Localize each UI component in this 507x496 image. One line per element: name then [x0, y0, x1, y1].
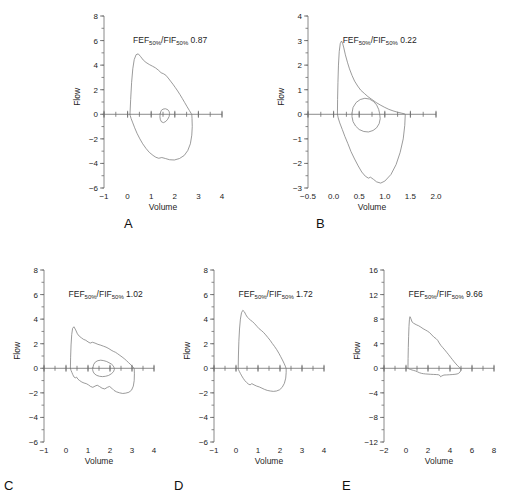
x-tick-label: 4: [448, 446, 453, 455]
x-tick-label: 0: [64, 446, 69, 455]
y-tick-label: 0: [94, 110, 99, 119]
panel-letter: E: [342, 478, 351, 493]
y-tick-label: 1: [298, 86, 303, 95]
x-tick-label: −1: [209, 446, 219, 455]
y-tick-label: −2: [29, 389, 39, 398]
chart-d: −6−4−202468−101234VolumeFlowFEF50%/FIF50…: [172, 258, 340, 494]
y-axis-title: Flow: [72, 87, 82, 106]
panel-e: −12−8−40481216−202468VolumeFlowFEF50%/FI…: [340, 258, 507, 494]
y-tick-label: 4: [298, 12, 303, 21]
panel-letter: C: [4, 478, 13, 493]
x-tick-label: 2: [426, 446, 431, 455]
y-tick-label: 6: [204, 291, 209, 300]
y-tick-label: 8: [34, 266, 39, 275]
y-tick-label: 12: [369, 291, 378, 300]
x-tick-label: 1.0: [379, 192, 391, 201]
y-tick-label: 2: [94, 86, 99, 95]
forced-vital-capacity-loop: [408, 317, 461, 377]
tidal-breathing-loop: [352, 98, 380, 132]
y-tick-label: −2: [199, 389, 209, 398]
y-axis-title: Flow: [182, 341, 192, 360]
x-tick-label: 4: [322, 446, 327, 455]
y-tick-label: −2: [89, 135, 99, 144]
x-tick-label: 4: [152, 446, 157, 455]
y-tick-label: −4: [199, 413, 209, 422]
y-tick-label: 0: [34, 364, 39, 373]
y-tick-label: 8: [204, 266, 209, 275]
panel-c: −6−4−202468−101234VolumeFlowFEF50%/FIF50…: [2, 258, 170, 494]
x-tick-label: 8: [492, 446, 497, 455]
y-tick-label: −6: [199, 438, 209, 447]
x-tick-label: 0: [234, 446, 239, 455]
x-tick-label: 6: [470, 446, 475, 455]
y-tick-label: 4: [204, 315, 209, 324]
y-tick-label: 0: [374, 364, 379, 373]
x-tick-label: 1: [256, 446, 261, 455]
tidal-breathing-loop: [160, 109, 170, 123]
panel-letter: A: [124, 216, 133, 231]
y-axis-title: Flow: [12, 341, 22, 360]
y-axis-title: Flow: [352, 341, 362, 360]
x-tick-label: 2.0: [430, 192, 442, 201]
x-tick-label: 4: [220, 192, 225, 201]
chart-e: −12−8−40481216−202468VolumeFlowFEF50%/FI…: [340, 258, 507, 494]
ratio-annotation: FEF50%/FIF50% 0.87: [133, 35, 207, 46]
y-tick-label: −4: [29, 413, 39, 422]
x-tick-label: 1.5: [405, 192, 417, 201]
forced-vital-capacity-loop: [337, 41, 405, 183]
x-axis-title: Volume: [149, 202, 178, 212]
y-tick-label: 2: [204, 340, 209, 349]
flow-volume-loop-figure: −6−4−202468−101234VolumeFlowFEF50%/FIF50…: [0, 0, 507, 496]
x-axis-title: Volume: [255, 456, 284, 466]
y-tick-label: 2: [298, 61, 303, 70]
ratio-annotation: FEF50%/FIF50% 0.22: [343, 35, 417, 46]
x-axis-title: Volume: [358, 202, 387, 212]
y-tick-label: −8: [369, 413, 379, 422]
panel-d: −6−4−202468−101234VolumeFlowFEF50%/FIF50…: [172, 258, 340, 494]
x-tick-label: 0: [125, 192, 130, 201]
y-tick-label: −6: [29, 438, 39, 447]
y-tick-label: 6: [34, 291, 39, 300]
panel-a: −6−4−202468−101234VolumeFlowFEF50%/FIF50…: [62, 2, 240, 234]
panel-b: −3−2−101234−0.50.00.51.01.52.0VolumeFlow…: [258, 2, 458, 234]
forced-vital-capacity-loop: [130, 54, 192, 160]
panel-letter: D: [174, 478, 183, 493]
forced-vital-capacity-loop: [238, 310, 286, 391]
y-tick-label: −12: [364, 438, 378, 447]
y-tick-label: 0: [298, 110, 303, 119]
y-tick-label: 2: [34, 340, 39, 349]
y-axis-title: Flow: [276, 87, 286, 106]
ratio-annotation: FEF50%/FIF50% 1.02: [69, 289, 143, 300]
x-tick-label: 0.0: [328, 192, 340, 201]
x-tick-label: 0.5: [354, 192, 366, 201]
y-tick-label: 6: [94, 37, 99, 46]
y-tick-label: 4: [374, 340, 379, 349]
x-tick-label: 2: [173, 192, 178, 201]
x-tick-label: 2: [278, 446, 283, 455]
panel-letter: B: [316, 216, 325, 231]
x-tick-label: 0: [404, 446, 409, 455]
x-tick-label: −0.5: [300, 192, 316, 201]
y-tick-label: 8: [94, 12, 99, 21]
y-tick-label: 8: [374, 315, 379, 324]
x-tick-label: 2: [108, 446, 113, 455]
x-tick-label: −1: [99, 192, 109, 201]
chart-b: −3−2−101234−0.50.00.51.01.52.0VolumeFlow…: [258, 2, 458, 234]
y-tick-label: −1: [293, 135, 303, 144]
chart-a: −6−4−202468−101234VolumeFlowFEF50%/FIF50…: [62, 2, 240, 234]
x-tick-label: 1: [86, 446, 91, 455]
y-tick-label: 4: [94, 61, 99, 70]
x-tick-label: 1: [149, 192, 154, 201]
y-tick-label: −2: [293, 159, 303, 168]
y-tick-label: 0: [204, 364, 209, 373]
chart-c: −6−4−202468−101234VolumeFlowFEF50%/FIF50…: [2, 258, 170, 494]
y-tick-label: −6: [89, 184, 99, 193]
y-tick-label: 4: [34, 315, 39, 324]
x-tick-label: −1: [39, 446, 49, 455]
x-tick-label: −2: [379, 446, 389, 455]
x-axis-title: Volume: [85, 456, 114, 466]
ratio-annotation: FEF50%/FIF50% 9.66: [409, 289, 483, 300]
x-axis-title: Volume: [425, 456, 454, 466]
ratio-annotation: FEF50%/FIF50% 1.72: [239, 289, 313, 300]
y-tick-label: 16: [369, 266, 378, 275]
